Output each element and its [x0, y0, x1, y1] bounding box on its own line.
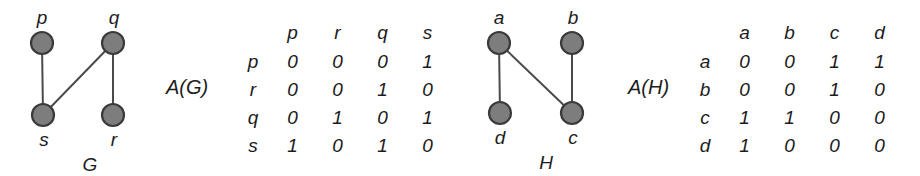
matrix-ah-col-header: b	[767, 18, 812, 48]
matrix-ah-cell: 0	[767, 76, 812, 104]
matrix-ah-row-header: a	[688, 48, 722, 76]
vertex-q	[102, 32, 124, 54]
vertex-c	[561, 102, 583, 124]
matrix-ag-cell: 1	[360, 132, 405, 160]
matrix-ag-row-header: r	[236, 76, 270, 104]
matrix-ag-row: p 0 0 0 1	[236, 48, 450, 76]
vertex-d	[489, 102, 511, 124]
vertex-r	[102, 104, 124, 126]
matrix-ag-cell: 1	[360, 76, 405, 104]
vertex-p	[31, 32, 53, 54]
matrix-ag-row-header: p	[236, 48, 270, 76]
matrix-ah-row: c 1 1 0 0	[688, 104, 902, 132]
matrix-ah-cell: 1	[767, 104, 812, 132]
matrix-ag-cell: 0	[405, 132, 450, 160]
matrix-ag-cell: 1	[270, 132, 315, 160]
matrix-ah-cell: 1	[722, 104, 767, 132]
matrix-ah-cell: 1	[722, 132, 767, 160]
matrix-ag-col-header: r	[315, 18, 360, 48]
matrix-ag-corner	[236, 18, 270, 48]
graph-h-edges	[499, 43, 572, 113]
matrix-ah-cell: 0	[857, 132, 902, 160]
matrix-ah-row: a 0 0 1 1	[688, 48, 902, 76]
vertex-label-s: s	[29, 130, 59, 149]
vertex-s	[32, 104, 54, 126]
vertex-label-a: a	[484, 8, 514, 27]
graph-g-name: G	[70, 155, 110, 174]
matrix-ag-cell: 1	[405, 104, 450, 132]
matrix-ag-col-header: p	[270, 18, 315, 48]
matrix-ah-cell: 0	[767, 132, 812, 160]
matrix-ah-row: b 0 0 1 0	[688, 76, 902, 104]
matrix-ah-cell: 0	[722, 48, 767, 76]
matrix-ag-header-row: p r q s	[236, 18, 450, 48]
matrix-ah-corner	[688, 18, 722, 48]
matrix-ag-caption: A(G)	[166, 77, 208, 97]
matrix-ag-cell: 0	[315, 76, 360, 104]
matrix-ah-col-header: a	[722, 18, 767, 48]
matrix-ah-cell: 0	[722, 76, 767, 104]
vertex-label-c: c	[558, 128, 588, 147]
matrix-ag-cell: 0	[270, 76, 315, 104]
vertex-label-b: b	[558, 8, 588, 27]
matrix-ah-cell: 1	[812, 76, 857, 104]
matrix-ah-cell: 1	[812, 48, 857, 76]
matrix-ah-caption: A(H)	[628, 77, 669, 97]
graph-g-edges	[42, 43, 113, 115]
graph-h-name: H	[526, 153, 566, 172]
matrix-ag-row: q 0 1 0 1	[236, 104, 450, 132]
adjacency-matrix-figure: p q s r G A(G) p r q s p 0 0 0 1 r	[0, 0, 920, 176]
matrix-ah: a b c d a 0 0 1 1 b 0 0 1 0 c 1	[688, 18, 902, 160]
matrix-ag-row-header: s	[236, 132, 270, 160]
matrix-ag-row: s 1 0 1 0	[236, 132, 450, 160]
matrix-ag-cell: 0	[360, 48, 405, 76]
matrix-ah-row-header: d	[688, 132, 722, 160]
matrix-ag-cell: 1	[405, 48, 450, 76]
matrix-ag-row: r 0 0 1 0	[236, 76, 450, 104]
matrix-ag: p r q s p 0 0 0 1 r 0 0 1 0 q 0	[236, 18, 450, 160]
vertex-label-q: q	[99, 8, 129, 27]
matrix-ag-col-header: q	[360, 18, 405, 48]
matrix-ag-cell: 0	[270, 48, 315, 76]
matrix-ag-cell: 0	[405, 76, 450, 104]
matrix-ag-cell: 0	[315, 132, 360, 160]
matrix-ag-cell: 0	[315, 48, 360, 76]
matrix-ah-cell: 0	[857, 76, 902, 104]
vertex-a	[488, 32, 510, 54]
matrix-ah-cell: 1	[857, 48, 902, 76]
matrix-ag-cell: 0	[270, 104, 315, 132]
edge-a-c	[499, 43, 572, 113]
matrix-ah-cell: 0	[767, 48, 812, 76]
vertex-label-d: d	[485, 128, 515, 147]
matrix-ah-col-header: d	[857, 18, 902, 48]
matrix-ah-header-row: a b c d	[688, 18, 902, 48]
matrix-ah-cell: 0	[812, 104, 857, 132]
matrix-ag-cell: 1	[315, 104, 360, 132]
matrix-ah-row: d 1 0 0 0	[688, 132, 902, 160]
matrix-ah-cell: 0	[812, 132, 857, 160]
matrix-ah-col-header: c	[812, 18, 857, 48]
matrix-ag-col-header: s	[405, 18, 450, 48]
matrix-ah-cell: 0	[857, 104, 902, 132]
vertex-label-r: r	[99, 130, 129, 149]
matrix-ah-row-header: b	[688, 76, 722, 104]
matrix-ah-row-header: c	[688, 104, 722, 132]
edge-s-q	[43, 43, 113, 115]
matrix-ag-cell: 0	[360, 104, 405, 132]
vertex-b	[561, 32, 583, 54]
vertex-label-p: p	[27, 8, 57, 27]
matrix-ag-row-header: q	[236, 104, 270, 132]
